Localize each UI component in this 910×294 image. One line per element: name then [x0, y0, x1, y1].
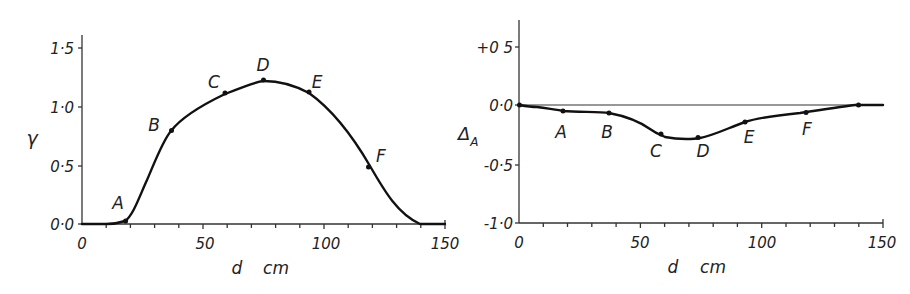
left-x-tick-150: 150 — [431, 235, 460, 253]
right-x-tick-150: 150 — [868, 234, 897, 252]
left-chart: 1·5 1·0 0·5 0·0 0 50 100 150 γ d — [26, 35, 459, 278]
left-point-b — [169, 128, 174, 133]
left-x-tick-0: 0 — [77, 235, 87, 253]
left-y-tick-1-0: 1·0 — [50, 99, 74, 117]
right-point-d — [696, 135, 701, 140]
left-point-f — [366, 165, 371, 170]
left-y-axis-title: γ — [26, 127, 39, 149]
right-point-e — [743, 120, 748, 125]
left-label-f: F — [376, 146, 386, 166]
right-point-end — [856, 103, 861, 108]
left-x-axis-title-d: d — [232, 258, 243, 278]
left-x-tick-100: 100 — [312, 235, 341, 253]
left-label-c: C — [208, 72, 220, 92]
left-y-tick-0-5: 0·5 — [50, 158, 74, 176]
right-point-f — [804, 110, 809, 115]
right-y-axis-title: ΔA — [456, 123, 479, 149]
left-x-axis-title-unit: cm — [263, 258, 289, 278]
figure: 1·5 1·0 0·5 0·0 0 50 100 150 γ d — [0, 0, 910, 294]
right-x-tick-100: 100 — [748, 234, 777, 252]
left-point-d — [261, 78, 266, 83]
right-x-axis-title-d: d — [668, 257, 679, 277]
right-y-tick-minus-1-0: -1·0 — [484, 215, 513, 233]
right-chart: +0 5 0·0 -0·5 -1·0 0 50 100 150 ΔA d — [456, 20, 896, 277]
left-y-tick-1-5: 1·5 — [50, 40, 74, 58]
right-x-tick-50: 50 — [630, 234, 649, 252]
left-label-e: E — [312, 72, 323, 92]
right-label-f: F — [802, 119, 812, 139]
right-point-c — [659, 132, 664, 137]
right-x-tick-0: 0 — [514, 234, 524, 252]
left-gamma-curve — [82, 81, 445, 224]
left-label-d: D — [256, 55, 269, 75]
right-x-axis-title-unit: cm — [700, 257, 726, 277]
right-label-b: B — [601, 122, 613, 142]
right-y-axis-title-main: Δ — [456, 123, 470, 144]
right-point-a — [561, 109, 566, 114]
left-point-a — [123, 219, 128, 224]
right-y-tick-0-0: 0·0 — [489, 97, 513, 115]
left-label-a: A — [111, 193, 124, 213]
right-label-a: A — [554, 122, 567, 142]
right-point-origin — [517, 103, 522, 108]
right-point-b — [607, 111, 612, 116]
left-y-tick-0-0: 0·0 — [50, 216, 74, 234]
right-label-c: C — [650, 141, 662, 161]
left-x-tick-50: 50 — [195, 235, 214, 253]
left-label-b: B — [148, 115, 160, 135]
right-y-tick-minus-0-5: -0·5 — [484, 157, 513, 175]
right-label-d: D — [696, 141, 709, 161]
left-point-c — [223, 91, 228, 96]
right-label-e: E — [744, 127, 755, 147]
right-y-axis-title-sub: A — [469, 135, 478, 149]
right-y-tick-plus-0-5: +0 5 — [477, 39, 513, 57]
right-delta-a-curve — [519, 105, 883, 139]
